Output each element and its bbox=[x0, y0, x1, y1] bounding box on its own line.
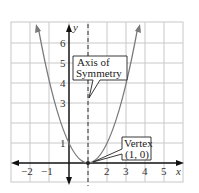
parabola-right-arrow-icon bbox=[135, 24, 141, 33]
y-axis-down-arrow-icon bbox=[66, 177, 72, 185]
x-tick-2: 2 bbox=[104, 165, 110, 177]
x-tick-3: 3 bbox=[123, 165, 129, 177]
axis-callout-line2: Symmetry bbox=[76, 67, 122, 79]
y-tick-5: 5 bbox=[60, 57, 66, 69]
x-tick-5: 5 bbox=[161, 165, 167, 177]
x-axis-left-arrow-icon bbox=[11, 160, 19, 166]
vertex-callout-line2: (1, 0) bbox=[125, 148, 149, 161]
y-axis-label: y bbox=[72, 21, 78, 33]
axis-of-symmetry-callout: Axis of Symmetry bbox=[73, 56, 127, 98]
vertex-callout: Vertex (1, 0) bbox=[93, 137, 153, 162]
vertex-point bbox=[86, 161, 90, 165]
y-axis bbox=[66, 24, 72, 185]
x-tick-minus-2: −2 bbox=[21, 165, 33, 177]
parabola-left-arrow-icon bbox=[35, 24, 41, 33]
parabola-chart: −2 −1 2 3 4 5 x 1 3 4 5 6 y Axis of Symm… bbox=[0, 0, 199, 193]
y-axis-up-arrow-icon bbox=[66, 24, 72, 32]
y-tick-3: 3 bbox=[60, 97, 66, 109]
y-tick-1: 1 bbox=[60, 137, 66, 149]
y-tick-4: 4 bbox=[60, 77, 66, 89]
y-tick-6: 6 bbox=[60, 37, 66, 49]
x-tick-4: 4 bbox=[142, 165, 148, 177]
x-tick-minus-1: −1 bbox=[41, 165, 53, 177]
x-axis-label: x bbox=[175, 165, 181, 177]
